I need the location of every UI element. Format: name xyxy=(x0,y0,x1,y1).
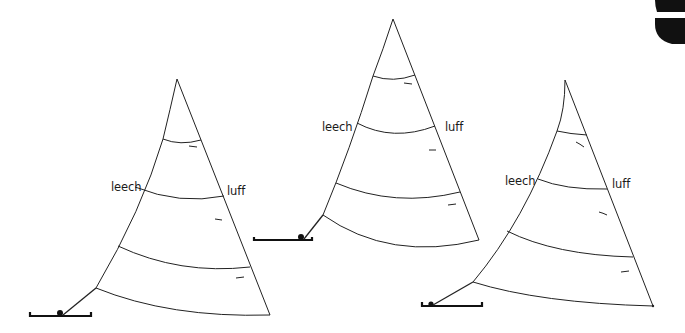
sail-2-luff xyxy=(393,19,479,240)
sail-1-telltale-1 xyxy=(189,146,197,147)
sail-2-leech xyxy=(323,19,393,215)
sail-3-luff xyxy=(565,80,653,306)
sail-3-luff-label: luff xyxy=(612,179,630,191)
sail-2-telltale-1 xyxy=(404,83,412,84)
sail-3-sheet-block xyxy=(428,301,433,306)
sail-2-sheet xyxy=(304,215,323,239)
sail-1-telltale-3 xyxy=(236,277,244,278)
sail-3-batten-1 xyxy=(557,131,587,135)
sail-2-batten-1 xyxy=(373,75,415,79)
sail-1-sheet xyxy=(63,288,96,315)
sail-1-luff xyxy=(177,79,270,315)
sail-2-telltale-3 xyxy=(448,204,456,205)
sail-2-batten-2 xyxy=(357,123,435,133)
sail-2-sheet-block xyxy=(298,234,304,240)
sail-1-batten-2 xyxy=(135,187,224,199)
sail-3-telltale-3 xyxy=(621,271,629,272)
sail-3 xyxy=(422,80,654,307)
sail-3-clew-point xyxy=(652,305,654,307)
sail-1-leech-label: leech xyxy=(111,182,141,194)
sail-3-batten-3 xyxy=(507,231,633,257)
sail-1-sheet-block xyxy=(57,310,63,316)
sail-1-batten-1 xyxy=(163,139,201,143)
sail-diagram xyxy=(0,0,685,333)
sail-1-foot xyxy=(96,288,270,315)
corner-shape xyxy=(655,0,685,44)
sail-2-batten-3 xyxy=(336,183,460,198)
sail-2-luff-label: luff xyxy=(445,122,463,134)
sail-3-leech-label: leech xyxy=(505,176,535,188)
sail-3-telltale-2 xyxy=(599,212,607,215)
sail-1-telltale-2 xyxy=(215,219,222,220)
sail-1-luff-label: luff xyxy=(227,186,245,198)
sail-3-sheet xyxy=(433,282,473,305)
sail-3-telltale-1 xyxy=(576,142,584,147)
sail-3-batten-2 xyxy=(538,179,607,189)
sail-3-foot xyxy=(473,282,653,306)
sail-1-batten-3 xyxy=(118,246,250,269)
sail-2-foot xyxy=(323,215,479,247)
sail-2-leech-label: leech xyxy=(322,122,352,134)
